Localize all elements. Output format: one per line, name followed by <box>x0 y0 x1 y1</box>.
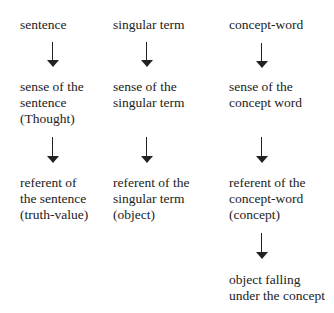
node-object-falling-under-concept: object falling under the concept <box>229 272 325 304</box>
arrow-down-icon <box>47 42 59 67</box>
node-text: singular term <box>113 17 185 33</box>
node-referent-of-sentence: referent of the sentence (truth-value) <box>20 175 88 223</box>
arrow-down-icon <box>47 137 59 163</box>
node-text: (object) <box>113 207 189 223</box>
node-text: referent of <box>20 175 88 191</box>
node-text: (truth-value) <box>20 207 88 223</box>
arrow-down-icon <box>256 43 268 68</box>
node-sense-of-concept-word: sense of the concept word <box>229 79 302 111</box>
node-text: sense of the <box>229 79 302 95</box>
node-text: sentence <box>20 17 66 33</box>
node-sentence: sentence <box>20 17 66 33</box>
node-text: the sentence <box>20 191 88 207</box>
arrow-down-icon <box>141 42 153 67</box>
node-singular-term: singular term <box>113 17 185 33</box>
node-referent-of-concept-word: referent of the concept-word (concept) <box>229 175 305 223</box>
node-concept-word: concept-word <box>229 17 303 33</box>
node-text: (concept) <box>229 207 305 223</box>
node-referent-of-singular-term: referent of the singular term (object) <box>113 175 189 223</box>
node-text: (Thought) <box>20 111 84 127</box>
node-text: sense of the <box>113 79 185 95</box>
node-text: concept-word <box>229 191 305 207</box>
node-text: concept word <box>229 95 302 111</box>
node-text: referent of the <box>229 175 305 191</box>
arrow-down-icon <box>256 137 268 163</box>
node-text: concept-word <box>229 17 303 33</box>
node-text: singular term <box>113 191 189 207</box>
node-text: object falling <box>229 272 325 288</box>
node-text: referent of the <box>113 175 189 191</box>
node-text: sentence <box>20 95 84 111</box>
arrow-down-icon <box>141 137 153 163</box>
arrow-down-icon <box>256 233 268 259</box>
node-text: sense of the <box>20 79 84 95</box>
node-sense-of-sentence: sense of the sentence (Thought) <box>20 79 84 127</box>
node-text: under the concept <box>229 288 325 304</box>
node-sense-of-singular-term: sense of the singular term <box>113 79 185 111</box>
node-text: singular term <box>113 95 185 111</box>
